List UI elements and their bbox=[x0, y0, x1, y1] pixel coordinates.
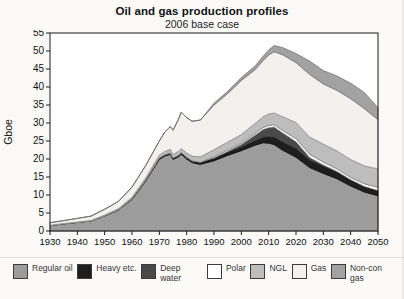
x-tick-label: 2050 bbox=[367, 236, 388, 247]
y-tick-label: 15 bbox=[33, 172, 45, 183]
figure-scan: { "chart_data": { "type": "area", "stack… bbox=[0, 0, 404, 299]
legend-label: Deep water bbox=[160, 263, 202, 283]
y-axis-label: Gboe bbox=[2, 119, 14, 145]
x-tick-label: 2020 bbox=[285, 236, 306, 247]
legend-swatch-ngl bbox=[250, 264, 265, 279]
legend-item-regular-oil: Regular oil bbox=[13, 263, 73, 279]
legend-swatch-heavy-etc bbox=[77, 264, 92, 279]
x-tick-label: 2010 bbox=[258, 236, 279, 247]
chart-title: Oil and gas production profiles bbox=[0, 5, 404, 18]
legend-item-deep-water: Deep water bbox=[141, 263, 202, 283]
production-area-chart: 0510152025303540455055193019401950196019… bbox=[0, 30, 404, 254]
y-tick-label: 20 bbox=[33, 154, 45, 165]
x-tick-label: 2030 bbox=[313, 236, 334, 247]
legend-label: Gas bbox=[311, 263, 327, 273]
chart-subtitle: 2006 base case bbox=[0, 19, 404, 31]
x-tick-label: 1940 bbox=[67, 236, 88, 247]
y-tick-label: 55 bbox=[33, 30, 45, 38]
chart-legend: Regular oil Heavy etc. Deep water Polar … bbox=[0, 257, 404, 299]
title-block: Oil and gas production profiles 2006 bas… bbox=[0, 5, 404, 30]
legend-swatch-polar bbox=[207, 264, 222, 279]
x-tick-label: 1930 bbox=[39, 236, 60, 247]
legend-label: Non-con gas bbox=[350, 263, 392, 283]
legend-swatch-gas bbox=[292, 264, 307, 279]
y-tick-label: 25 bbox=[33, 136, 45, 147]
x-tick-label: 2000 bbox=[231, 236, 252, 247]
legend-label: NGL bbox=[269, 263, 286, 273]
x-tick-label: 1990 bbox=[203, 236, 224, 247]
y-tick-label: 45 bbox=[33, 64, 45, 75]
legend-label: Regular oil bbox=[32, 263, 73, 273]
legend-item-ngl: NGL bbox=[250, 263, 286, 279]
legend-item-polar: Polar bbox=[207, 263, 246, 279]
x-tick-label: 1950 bbox=[94, 236, 115, 247]
legend-label: Polar bbox=[226, 263, 246, 273]
legend-swatch-non-con-gas bbox=[331, 264, 346, 279]
y-tick-label: 50 bbox=[33, 46, 45, 57]
legend-item-non-con-gas: Non-con gas bbox=[331, 263, 392, 283]
y-tick-label: 0 bbox=[38, 226, 44, 237]
x-tick-label: 1960 bbox=[121, 236, 142, 247]
legend-swatch-deep-water bbox=[141, 264, 156, 279]
y-tick-label: 35 bbox=[33, 100, 45, 111]
y-tick-label: 5 bbox=[38, 208, 44, 219]
x-tick-label: 2040 bbox=[340, 236, 361, 247]
legend-item-gas: Gas bbox=[292, 263, 327, 279]
legend-label: Heavy etc. bbox=[96, 263, 136, 273]
legend-swatch-regular-oil bbox=[13, 264, 28, 279]
y-tick-label: 10 bbox=[33, 190, 45, 201]
y-tick-label: 30 bbox=[33, 118, 45, 129]
y-tick-label: 40 bbox=[33, 82, 45, 93]
legend-item-heavy-etc: Heavy etc. bbox=[77, 263, 136, 279]
x-tick-label: 1980 bbox=[176, 236, 197, 247]
x-tick-label: 1970 bbox=[149, 236, 170, 247]
